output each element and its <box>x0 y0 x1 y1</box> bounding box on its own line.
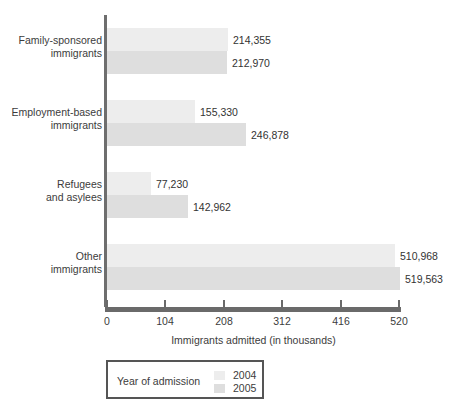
bar-2004[interactable] <box>107 244 395 267</box>
category-label-line2: immigrants <box>0 47 102 60</box>
x-tick-mark <box>106 300 108 308</box>
category-label-line1: Employment-based <box>0 106 102 119</box>
legend-label-2005: 2005 <box>233 382 256 394</box>
plot-area: Family-sponsored immigrants 214,355 212,… <box>107 15 400 305</box>
x-tick-mark <box>223 300 225 308</box>
bar-2004[interactable] <box>107 28 228 51</box>
x-tick-mark <box>281 300 283 308</box>
legend-label-2004: 2004 <box>233 369 256 381</box>
bar-chart-figure: Family-sponsored immigrants 214,355 212,… <box>0 0 455 411</box>
bar-value-label: 142,962 <box>193 201 231 213</box>
x-tick-label: 312 <box>273 315 291 327</box>
bar-value-label: 212,970 <box>232 57 270 69</box>
x-tick-label: 520 <box>390 315 408 327</box>
category-label-line2: immigrants <box>0 119 102 132</box>
x-tick-mark <box>340 300 342 308</box>
category-label: Employment-based immigrants <box>0 106 102 131</box>
x-axis-line <box>105 307 401 312</box>
category-label: Refugees and asylees <box>0 178 102 203</box>
x-tick-label: 0 <box>104 315 110 327</box>
bar-value-label: 214,355 <box>233 34 271 46</box>
bar-value-label: 246,878 <box>251 129 289 141</box>
x-axis-title: Immigrants admitted (in thousands) <box>107 334 400 346</box>
category-label-line2: and asylees <box>0 191 102 204</box>
category-label-line1: Family-sponsored <box>0 34 102 47</box>
category-label-line1: Refugees <box>0 178 102 191</box>
x-tick-label: 416 <box>332 315 350 327</box>
x-tick-label: 104 <box>156 315 174 327</box>
legend-swatch-2004 <box>214 371 225 380</box>
bar-2005[interactable] <box>107 267 400 290</box>
bar-2005[interactable] <box>107 123 246 146</box>
legend: Year of admission 2004 2005 <box>106 360 264 399</box>
x-tick-mark <box>164 300 166 308</box>
x-tick-mark <box>398 300 400 308</box>
legend-swatch-2005 <box>214 384 225 393</box>
category-label-line1: Other <box>0 250 102 263</box>
bar-2004[interactable] <box>107 100 195 123</box>
category-label: Family-sponsored immigrants <box>0 34 102 59</box>
bar-2004[interactable] <box>107 172 151 195</box>
bar-value-label: 77,230 <box>156 178 188 190</box>
category-label-line2: immigrants <box>0 263 102 276</box>
bar-value-label: 510,968 <box>400 250 438 262</box>
legend-title: Year of admission <box>117 375 200 387</box>
bar-2005[interactable] <box>107 195 188 218</box>
bar-value-label: 155,330 <box>200 106 238 118</box>
bar-value-label: 519,563 <box>405 273 443 285</box>
category-label: Other immigrants <box>0 250 102 275</box>
bar-2005[interactable] <box>107 51 227 74</box>
x-tick-label: 208 <box>215 315 233 327</box>
